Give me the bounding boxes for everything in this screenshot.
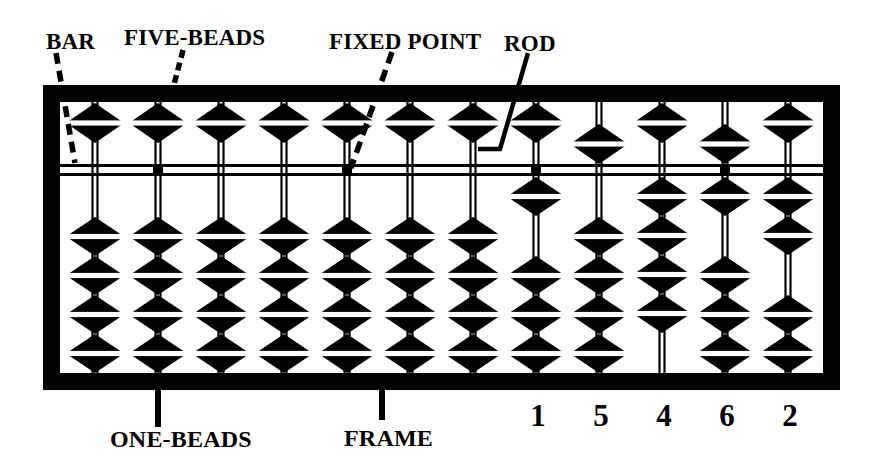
one-bead-rod-3-2-stripe: [191, 273, 251, 278]
one-bead-rod-7-1-stripe: [443, 234, 503, 239]
one-bead-rod-7-4-stripe: [443, 351, 503, 356]
one-bead-rod-10-1-stripe: [632, 194, 692, 199]
fixed-point-dot-rod-2: [153, 165, 163, 176]
one-bead-rod-12-3-stripe: [758, 312, 818, 317]
one-bead-rod-4-4-stripe: [254, 351, 314, 356]
rod-9-digit: 5: [581, 400, 621, 431]
rod-label: ROD: [504, 32, 556, 55]
one-bead-rod-4-1-stripe: [254, 234, 314, 239]
one-bead-rod-11-4-stripe: [695, 351, 755, 356]
five-bead-rod-3-stripe: [191, 120, 251, 125]
one-bead-rod-5-2-stripe: [317, 273, 377, 278]
one-bead-rod-12-2-stripe: [758, 233, 818, 238]
one-bead-rod-2-4-stripe: [128, 351, 188, 356]
five-bead-rod-7-stripe: [443, 120, 503, 125]
one-bead-rod-9-2-stripe: [569, 273, 629, 278]
five-bead-rod-2-stripe: [128, 120, 188, 125]
one-bead-rod-6-3-stripe: [380, 312, 440, 317]
one-bead-rod-6-1-stripe: [380, 234, 440, 239]
one-bead-rod-10-3-stripe: [632, 272, 692, 277]
one-bead-rod-11-3-stripe: [695, 312, 755, 317]
one-bead-rod-5-3-stripe: [317, 312, 377, 317]
five-bead-rod-11-stripe: [695, 141, 755, 146]
fixed-point-label: FIXED POINT: [329, 30, 481, 53]
one-bead-rod-4-2-stripe: [254, 273, 314, 278]
five-bead-rod-9-stripe: [569, 141, 629, 146]
one-bead-rod-9-3-stripe: [569, 312, 629, 317]
one-bead-rod-1-2-stripe: [65, 273, 125, 278]
one-bead-rod-3-4-stripe: [191, 351, 251, 356]
one-bead-rod-1-1-stripe: [65, 234, 125, 239]
five-bead-rod-6-stripe: [380, 120, 440, 125]
one-bead-rod-8-2-stripe: [506, 273, 566, 278]
fixed-point-dot-rod-11: [720, 165, 730, 176]
one-bead-rod-5-4-stripe: [317, 351, 377, 356]
one-bead-rod-8-3-stripe: [506, 312, 566, 317]
one-bead-rod-2-2-stripe: [128, 273, 188, 278]
one-bead-rod-3-1-stripe: [191, 234, 251, 239]
one-bead-rod-2-3-stripe: [128, 312, 188, 317]
one-bead-rod-7-3-stripe: [443, 312, 503, 317]
abacus-diagram: BAR FIVE-BEADS FIXED POINT ROD ONE-BEADS…: [0, 0, 876, 473]
one-bead-rod-2-1-stripe: [128, 234, 188, 239]
one-bead-rod-7-2-stripe: [443, 273, 503, 278]
frame-label: FRAME: [344, 426, 433, 450]
one-bead-rod-4-3-stripe: [254, 312, 314, 317]
rod-12-digit: 2: [770, 400, 810, 431]
one-bead-rod-12-1-stripe: [758, 194, 818, 199]
one-bead-rod-11-2-stripe: [695, 273, 755, 278]
one-bead-rod-1-3-stripe: [65, 312, 125, 317]
one-beads-label: ONE-BEADS: [110, 427, 252, 451]
one-bead-rod-10-2-stripe: [632, 233, 692, 238]
five-bead-rod-10-stripe: [632, 120, 692, 125]
one-bead-rod-9-1-stripe: [569, 234, 629, 239]
one-bead-rod-8-4-stripe: [506, 351, 566, 356]
five-beads-label: FIVE-BEADS: [124, 26, 265, 49]
one-bead-rod-9-4-stripe: [569, 351, 629, 356]
one-bead-rod-12-4-stripe: [758, 351, 818, 356]
rod-10-digit: 4: [644, 400, 684, 431]
five-bead-rod-4-stripe: [254, 120, 314, 125]
one-bead-rod-8-1-stripe: [506, 194, 566, 199]
one-bead-rod-6-2-stripe: [380, 273, 440, 278]
five-bead-rod-1-stripe: [65, 120, 125, 125]
one-bead-rod-11-1-stripe: [695, 194, 755, 199]
one-bead-rod-5-1-stripe: [317, 234, 377, 239]
rod-11-digit: 6: [707, 400, 747, 431]
one-bead-rod-3-3-stripe: [191, 312, 251, 317]
five-bead-rod-8-stripe: [506, 120, 566, 125]
one-bead-rod-1-4-stripe: [65, 351, 125, 356]
fixed-point-dot-rod-8: [531, 165, 541, 176]
one-bead-rod-10-4-stripe: [632, 311, 692, 316]
rod-8-digit: 1: [518, 400, 558, 431]
bar-label: BAR: [46, 30, 95, 53]
one-bead-rod-6-4-stripe: [380, 351, 440, 356]
five-bead-rod-12-stripe: [758, 120, 818, 125]
